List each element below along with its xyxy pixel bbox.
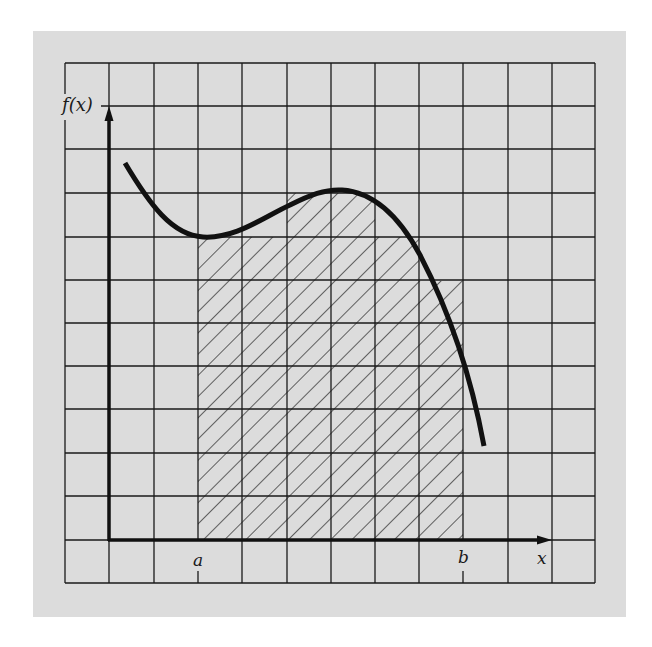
grid-plot: [33, 31, 626, 617]
lower-limit-label-a: a: [193, 552, 203, 569]
y-axis-label: f(x): [62, 96, 93, 114]
upper-limit-label-b: b: [458, 549, 469, 566]
hatch-step-3: [375, 237, 419, 540]
integral-approximation-figure: f(x) x a b: [33, 31, 626, 617]
hatch-step-4: [419, 281, 463, 540]
x-axis-label: x: [537, 550, 547, 567]
x-axis-arrow-icon: [537, 536, 552, 545]
y-axis-arrow-icon: [105, 106, 114, 121]
